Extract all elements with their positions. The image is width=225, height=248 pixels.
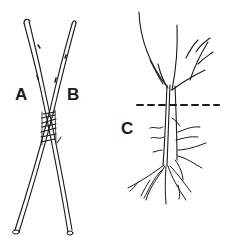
label-c: C — [121, 120, 133, 137]
illustration-canvas: A B C — [0, 0, 225, 248]
label-a: A — [15, 86, 27, 103]
stick-b — [13, 21, 77, 234]
label-b: B — [67, 86, 79, 103]
stick-a — [24, 19, 73, 235]
sapling-stem — [139, 12, 213, 166]
illustration-svg — [0, 0, 225, 248]
